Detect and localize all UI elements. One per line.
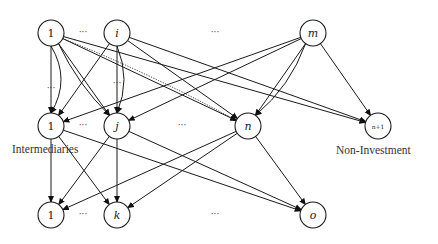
ellipsis: ··· [178,120,187,130]
edges-layer [51,37,371,211]
edge-t1-to-m1 [51,46,61,113]
node-label: o [310,209,317,222]
node-label: n [244,120,251,133]
intermediaries-label: Intermediaries [12,143,79,155]
node-intermediaries-mj: j [104,113,130,139]
edge-t1-to-mn [63,39,236,121]
node-label: 1 [48,27,55,40]
node-label: 1 [48,209,55,222]
edge-mn-to-bk [128,133,237,207]
ellipsis: ··· [79,27,88,37]
edge-tm-to-mn [255,44,305,116]
node-investors-tm: m [300,20,326,46]
node-label: k [114,209,121,222]
node-label: m [308,27,318,40]
ellipsis: ··· [79,120,88,130]
node-investors-ti: i [104,20,130,46]
ellipsis: ··· [211,209,220,219]
node-outputs-bo: o [300,202,326,228]
network-diagram: ························ 1im1jnn+11ko In… [0,0,438,244]
edge-tm-to-m1 [63,37,300,121]
edge-tm-to-mn1 [320,44,370,116]
node-label: 1 [48,120,55,133]
edge-mn-to-bo [256,136,306,204]
ellipsis: ··· [47,83,56,93]
edge-ti-to-mn1 [129,37,366,121]
node-outputs-bk: k [104,202,130,228]
ellipsis: ··· [211,27,220,37]
node-intermediaries-mn: n [235,113,261,139]
ellipses-layer: ························ [47,27,220,219]
node-intermediaries-m1: 1 [38,113,64,139]
edge-tm-to-mj [129,39,302,121]
node-outputs-b1: 1 [38,202,64,228]
ellipsis: ··· [113,78,122,88]
node-investors-t1: 1 [38,20,64,46]
ellipsis: ··· [79,209,88,219]
edge-mn-to-b1 [63,131,236,209]
non-investment-label: Non-Investment [336,144,412,156]
node-label: n+1 [372,123,385,130]
node-intermediaries-mn1: n+1 [365,113,391,139]
node-label: i [115,27,119,40]
edge-mj-to-bo [129,131,301,209]
